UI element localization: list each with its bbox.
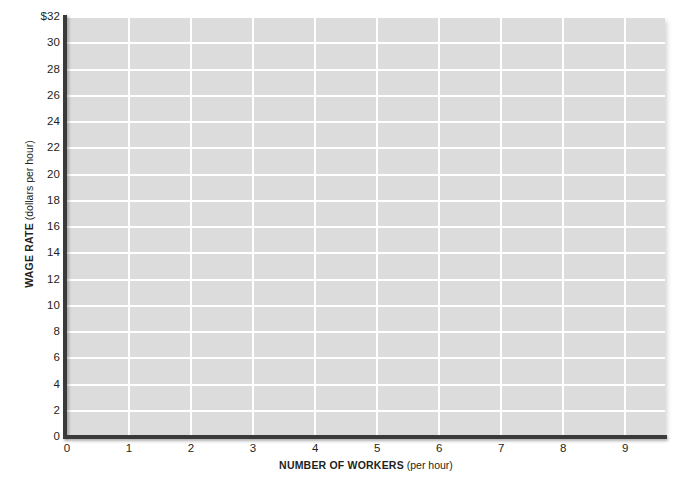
y-axis-line [63, 15, 67, 439]
gridline-vertical [128, 17, 130, 437]
gridline-horizontal [67, 42, 665, 44]
gridline-vertical [314, 17, 316, 437]
x-tick-label: 7 [486, 443, 516, 455]
gridline-horizontal [67, 200, 665, 202]
x-axis-title-unit: (per hour) [407, 459, 453, 471]
gridline-vertical [500, 17, 502, 437]
x-tick-label: 3 [238, 443, 268, 455]
gridline-vertical [252, 17, 254, 437]
y-tick-label: 6 [0, 352, 60, 364]
x-axis-title-main: NUMBER OF WORKERS [279, 459, 404, 471]
gridline-horizontal [67, 357, 665, 359]
gridline-vertical [624, 17, 626, 437]
y-axis-title-unit: (dollars per hour) [23, 140, 35, 220]
y-tick-label: 2 [0, 405, 60, 417]
x-tick-label: 0 [52, 443, 82, 455]
x-tick-label: 9 [610, 443, 640, 455]
y-tick-label: 4 [0, 379, 60, 391]
gridline-vertical [190, 17, 192, 437]
gridline-horizontal [67, 95, 665, 97]
gridline-horizontal [67, 279, 665, 281]
y-tick-label: 0 [0, 431, 60, 443]
gridline-horizontal [67, 410, 665, 412]
x-tick-label: 1 [114, 443, 144, 455]
wage-rate-vs-workers-chart: 024681012141618202224262830$32 012345678… [0, 0, 696, 494]
gridline-horizontal [67, 226, 665, 228]
y-axis-title-main: WAGE RATE [23, 223, 35, 288]
gridline-horizontal [67, 121, 665, 123]
gridline-vertical [438, 17, 440, 437]
gridline-horizontal [67, 384, 665, 386]
gridline-horizontal [67, 147, 665, 149]
x-axis-line [63, 435, 667, 439]
gridline-horizontal [67, 305, 665, 307]
plot-area [67, 17, 665, 437]
x-tick-label: 6 [424, 443, 454, 455]
y-tick-label: $32 [0, 11, 60, 23]
gridline-horizontal [67, 16, 665, 18]
gridline-vertical [562, 17, 564, 437]
gridline-horizontal [67, 174, 665, 176]
x-axis-title: NUMBER OF WORKERS (per hour) [67, 459, 665, 471]
gridline-horizontal [67, 252, 665, 254]
x-tick-label: 8 [548, 443, 578, 455]
y-tick-label: 28 [0, 64, 60, 76]
gridline-vertical [376, 17, 378, 437]
y-tick-label: 30 [0, 37, 60, 49]
x-tick-label: 2 [176, 443, 206, 455]
y-axis-title: WAGE RATE (dollars per hour) [23, 99, 35, 329]
x-tick-label: 5 [362, 443, 392, 455]
gridline-horizontal [67, 69, 665, 71]
gridline-horizontal [67, 331, 665, 333]
x-tick-label: 4 [300, 443, 330, 455]
